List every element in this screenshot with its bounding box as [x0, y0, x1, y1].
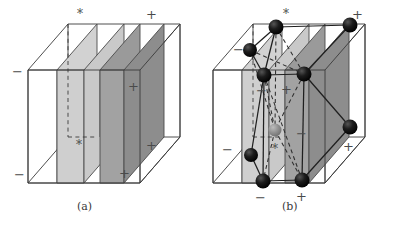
panel-a-sign-far-right-plus: +	[146, 139, 157, 152]
sphere-mid-left	[257, 68, 272, 83]
panel-b-sign-mid-right-plus: +	[281, 83, 292, 96]
panel-b-sign-top-right-plus: +	[352, 8, 363, 21]
panel-a-sign-top-right-plus: +	[146, 8, 157, 21]
panel-a-sign-interior-star: *	[76, 139, 82, 151]
panel-b-sign-left-low-minus: −	[222, 143, 233, 156]
panel-b-sign-top-star: *	[283, 8, 289, 20]
panel-b-sign-far-right-plus: +	[343, 140, 354, 153]
panel-b-sign-bottom-plus: +	[296, 190, 307, 203]
sphere-lower-left	[244, 148, 258, 162]
sphere-upper-left	[243, 43, 257, 57]
sphere-top-left-back	[269, 20, 284, 35]
panel-b-sign-bottom-minus: −	[255, 191, 266, 204]
panel-a-geometry	[28, 24, 180, 183]
sphere-mid-right	[297, 67, 312, 82]
sphere-bottom-left	[256, 174, 271, 189]
panel-b-sign-interior-star: *	[272, 143, 278, 155]
sphere-center-gray	[269, 124, 282, 137]
panel-a-sign-left-minus: −	[12, 65, 23, 78]
panel-b-sign-mid-left-minus: −	[256, 84, 267, 97]
figure-svg	[0, 0, 397, 227]
panel-a-sign-top-star: *	[77, 8, 83, 20]
panel-b-sign-interior-minus: −	[296, 127, 307, 140]
panel-a-sign-bottom-minus: −	[14, 168, 25, 181]
sphere-bottom-right	[295, 173, 310, 188]
sphere-right-front	[343, 120, 358, 135]
figure-canvas: *+−+*+−+*+−−+−−*+−+ (a) (b)	[0, 0, 397, 227]
panel-a-sign-mid-right-plus: +	[128, 80, 139, 93]
panel-a-caption: (a)	[77, 200, 92, 213]
panel-b-caption: (b)	[282, 200, 298, 213]
panel-a-sign-bottom-plus: +	[119, 167, 130, 180]
panel-b-sign-left-minus: −	[233, 43, 244, 56]
